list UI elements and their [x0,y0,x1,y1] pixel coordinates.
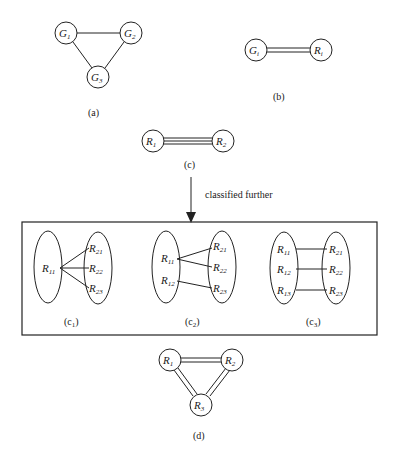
node-d-r1: R1 [159,349,181,371]
panel-c3: R11 R12 R13 R21 R22 R23 (c3) [270,232,350,329]
caption-a: (a) [88,107,99,119]
caption-b: (b) [273,91,285,103]
panel-b: Gi Ri (b) [245,39,332,103]
panel-c2: R11 R12 R21 R22 R23 (c2) [152,231,236,329]
node-g2: G2 [120,22,142,44]
edge-c2-3 [177,281,212,288]
node-c3-r22: R22 [328,263,343,277]
node-c1-r21: R21 [88,242,103,256]
node-c1-r11: R11 [41,262,55,276]
node-d-r2: R2 [221,349,243,371]
node-c2-r11: R11 [160,252,174,266]
node-c3-r12: R12 [276,263,291,277]
node-g1: G1 [55,22,77,44]
panel-c: R1 R2 (c) [142,130,234,171]
node-c3-r21: R21 [328,243,343,257]
caption-c2: (c2) [185,316,200,329]
node-g3: G3 [87,66,109,88]
node-ri: Ri [310,39,332,61]
panel-a: G1 G2 G3 (a) [55,22,142,119]
node-gi: Gi [245,39,267,61]
node-c2-r22: R22 [212,261,227,275]
set-left-c2 [152,231,180,303]
node-c2-r12: R12 [160,274,175,288]
edge-d-r1-r3-a [174,370,193,396]
caption-c3: (c3) [306,316,321,329]
edge-g2-g3 [105,42,124,68]
caption-c: (c) [184,159,195,171]
arrow-label: classified further [205,189,273,200]
node-r1: R1 [142,130,164,152]
edge-d-r2-r3-a [206,368,226,394]
node-c3-r11: R11 [276,243,290,257]
panel-d: R1 R2 R3 (d) [159,349,243,442]
node-c2-r21: R21 [212,240,227,254]
caption-d: (d) [193,430,205,442]
arrow-head-icon [186,212,196,223]
diagram-canvas: G1 G2 G3 (a) Gi Ri (b) R1 [0,0,394,465]
node-c3-r13: R13 [276,284,291,298]
node-c1-r22: R22 [88,262,103,276]
node-r2: R2 [212,130,234,152]
edge-c2-2 [177,259,212,267]
node-c1-r23: R23 [88,282,103,296]
node-c3-r23: R23 [328,284,343,298]
edge-d-r1-r3-b [178,368,197,394]
panel-c1: R11 R21 R22 R23 (c1) [34,231,112,329]
classified-arrow: classified further [186,177,273,223]
node-d-r3: R3 [190,394,212,416]
edge-c2-1 [177,248,212,259]
edge-d-r2-r3-b [210,370,230,396]
node-c2-r23: R23 [212,282,227,296]
edge-g1-g3 [73,42,92,68]
caption-c1: (c1) [64,316,79,329]
